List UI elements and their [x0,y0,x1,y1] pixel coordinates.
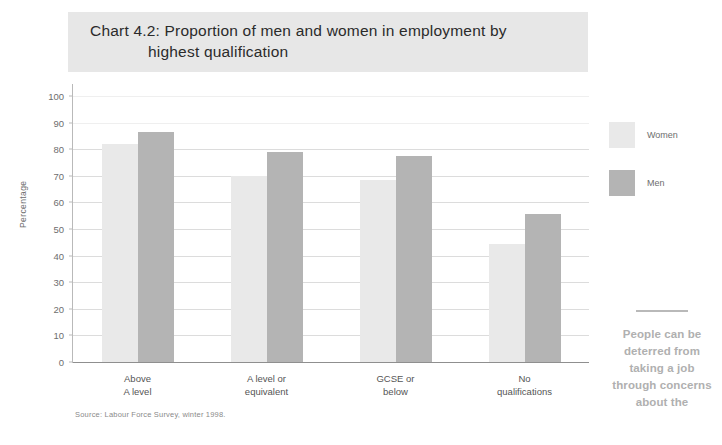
legend-swatch-men [609,170,635,196]
gridline [73,123,589,124]
pull-quote-text: People can be deterred from taking a job… [606,326,718,411]
y-axis-tick-label: 50 [36,224,64,235]
y-axis-tick-label: 40 [36,250,64,261]
y-axis-tick-label: 90 [36,117,64,128]
y-axis-tick-label: 0 [36,357,64,368]
y-axis-tick-label: 80 [36,144,64,155]
x-axis-category-label: GCSE or below [331,372,460,398]
legend-label: Men [647,178,665,188]
y-axis-tick-label: 100 [36,91,64,102]
bar-men-4 [525,214,561,362]
y-axis-tick-label: 30 [36,277,64,288]
source-note: Source: Labour Force Survey, winter 1998… [75,410,226,419]
x-axis-line [73,362,589,363]
x-axis-category-label: A level or equivalent [202,372,331,398]
plot-area [73,96,589,362]
bar-men-3 [396,156,432,362]
bar-men-1 [138,132,174,362]
x-axis-category-label: No qualifications [460,372,589,398]
bar-women-2 [231,176,267,362]
bar-women-4 [489,244,525,362]
legend-item-women[interactable]: Women [609,122,678,148]
legend-swatch-women [609,122,635,148]
y-axis-tick-label: 20 [36,303,64,314]
y-axis-tick-label: 60 [36,197,64,208]
legend-item-men[interactable]: Men [609,170,665,196]
pull-quote-rule [636,310,688,312]
legend-label: Women [647,130,678,140]
y-axis-tick-label: 10 [36,330,64,341]
pull-quote: People can be deterred from taking a job… [606,310,718,411]
bar-women-1 [102,144,138,362]
x-axis-category-label: Above A level [73,372,202,398]
gridline [73,96,589,97]
bar-women-3 [360,180,396,362]
y-axis-title: Percentage [18,181,28,228]
bar-men-2 [267,152,303,362]
y-axis-tick-label: 70 [36,170,64,181]
